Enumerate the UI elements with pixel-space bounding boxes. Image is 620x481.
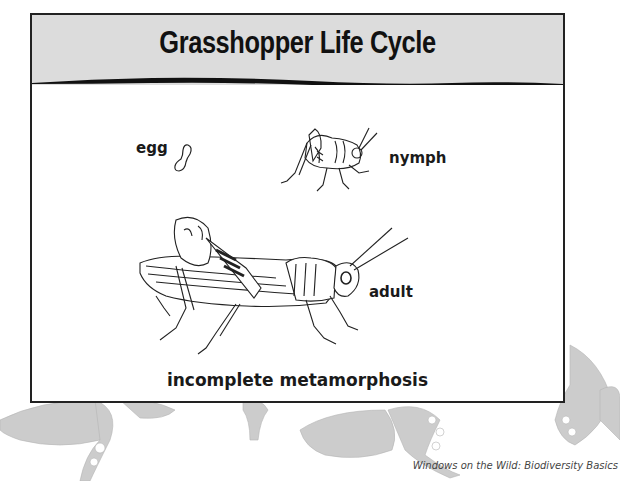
nymph-label: nymph (389, 149, 447, 167)
adult-label: adult (369, 283, 413, 301)
butterfly-middle-tail-icon (243, 400, 268, 440)
nymph-grasshopper-illustration-icon (277, 123, 387, 198)
egg-label: egg (136, 139, 168, 157)
metamorphosis-caption: incomplete metamorphosis (32, 370, 563, 390)
brush-stroke-divider (32, 73, 563, 93)
source-credit: Windows on the Wild: Biodiversity Basics (413, 460, 618, 471)
egg-illustration-icon (172, 142, 194, 174)
butterfly-left-icon (0, 400, 175, 481)
diagram-title: Grasshopper Life Cycle (80, 25, 515, 61)
life-cycle-card: Grasshopper Life Cycle egg nymph (30, 13, 565, 403)
